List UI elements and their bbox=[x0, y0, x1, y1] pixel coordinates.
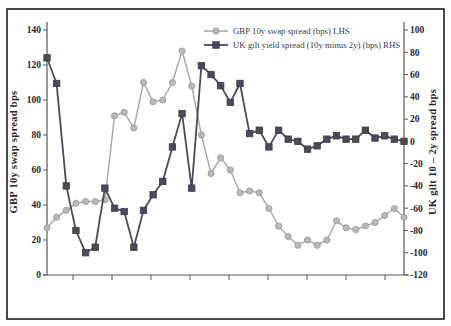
data-point-square bbox=[266, 144, 272, 150]
data-point-circle bbox=[54, 214, 60, 220]
right-tick-label: -120 bbox=[410, 270, 428, 280]
right-tick-label: -40 bbox=[410, 181, 423, 191]
data-point-circle bbox=[304, 237, 310, 243]
legend-square-marker-icon bbox=[213, 42, 219, 48]
data-point-square bbox=[169, 144, 175, 150]
data-point-circle bbox=[160, 97, 166, 103]
left-tick-label: 40 bbox=[32, 200, 42, 210]
data-point-square bbox=[227, 99, 233, 105]
data-point-circle bbox=[169, 79, 175, 85]
dual-axis-line-chart: 020406080100120140100806040200-20-40-60-… bbox=[0, 0, 451, 326]
data-point-circle bbox=[140, 79, 146, 85]
data-point-square bbox=[343, 136, 349, 142]
data-point-circle bbox=[218, 155, 224, 161]
data-point-circle bbox=[362, 223, 368, 229]
left-axis-title: GBP 10y swap spread bps bbox=[8, 91, 19, 214]
legend-label-gilt: UK gilt yield spread (10y minus 2y) (bps… bbox=[233, 40, 400, 50]
data-point-circle bbox=[111, 113, 117, 119]
data-point-circle bbox=[131, 125, 137, 131]
data-point-circle bbox=[391, 205, 397, 211]
data-point-square bbox=[372, 135, 378, 141]
data-point-square bbox=[63, 183, 69, 189]
data-point-circle bbox=[372, 219, 378, 225]
data-point-square bbox=[92, 244, 98, 250]
right-tick-label: -100 bbox=[410, 248, 428, 258]
data-point-square bbox=[121, 208, 127, 214]
data-point-square bbox=[237, 80, 243, 86]
data-point-square bbox=[382, 133, 388, 139]
data-point-square bbox=[44, 55, 50, 61]
legend-item-gilt: UK gilt yield spread (10y minus 2y) (bps… bbox=[204, 40, 400, 50]
data-point-circle bbox=[198, 132, 204, 138]
data-point-square bbox=[275, 127, 281, 133]
right-tick-label: -20 bbox=[410, 159, 423, 169]
data-point-square bbox=[362, 127, 368, 133]
data-point-square bbox=[324, 136, 330, 142]
data-point-circle bbox=[314, 242, 320, 248]
data-point-circle bbox=[382, 212, 388, 218]
figure-page: 020406080100120140100806040200-20-40-60-… bbox=[0, 0, 451, 326]
data-point-square bbox=[314, 143, 320, 149]
data-point-circle bbox=[121, 109, 127, 115]
left-tick-label: 60 bbox=[32, 165, 42, 175]
data-point-square bbox=[304, 146, 310, 152]
data-point-circle bbox=[333, 218, 339, 224]
data-point-square bbox=[208, 71, 214, 77]
data-point-circle bbox=[285, 233, 291, 239]
data-point-square bbox=[198, 62, 204, 68]
data-point-square bbox=[189, 185, 195, 191]
data-point-circle bbox=[150, 99, 156, 105]
right-tick-label: 20 bbox=[410, 114, 420, 124]
data-point-circle bbox=[63, 207, 69, 213]
data-point-square bbox=[217, 82, 223, 88]
data-point-circle bbox=[82, 198, 88, 204]
data-point-square bbox=[102, 185, 108, 191]
data-point-square bbox=[353, 136, 359, 142]
data-point-circle bbox=[295, 242, 301, 248]
right-tick-label: 0 bbox=[410, 137, 415, 147]
right-tick-label: -60 bbox=[410, 204, 423, 214]
data-point-square bbox=[82, 250, 88, 256]
right-tick-label: 60 bbox=[410, 70, 420, 80]
data-point-square bbox=[140, 207, 146, 213]
data-point-square bbox=[256, 127, 262, 133]
data-point-circle bbox=[401, 214, 407, 220]
data-point-circle bbox=[179, 48, 185, 54]
data-point-square bbox=[246, 130, 252, 136]
legend-circle-marker-icon bbox=[213, 28, 219, 34]
left-tick-label: 20 bbox=[32, 235, 42, 245]
data-point-square bbox=[295, 138, 301, 144]
right-tick-label: 100 bbox=[410, 25, 425, 35]
data-point-square bbox=[391, 136, 397, 142]
data-point-circle bbox=[266, 205, 272, 211]
data-point-square bbox=[333, 133, 339, 139]
data-point-circle bbox=[237, 190, 243, 196]
left-tick-label: 80 bbox=[32, 130, 42, 140]
data-point-square bbox=[179, 110, 185, 116]
data-point-circle bbox=[208, 170, 214, 176]
data-point-circle bbox=[353, 226, 359, 232]
data-point-square bbox=[111, 205, 117, 211]
data-point-circle bbox=[44, 225, 50, 231]
left-tick-label: 120 bbox=[27, 60, 42, 70]
data-point-circle bbox=[189, 83, 195, 89]
data-point-circle bbox=[275, 223, 281, 229]
data-point-square bbox=[53, 80, 59, 86]
data-point-circle bbox=[324, 237, 330, 243]
right-axis-title: UK gilt 10 – 2y spread bps bbox=[427, 89, 438, 215]
data-point-circle bbox=[343, 225, 349, 231]
data-point-square bbox=[150, 192, 156, 198]
data-point-circle bbox=[256, 190, 262, 196]
data-point-circle bbox=[247, 188, 253, 194]
data-point-square bbox=[73, 227, 79, 233]
right-tick-label: 40 bbox=[410, 92, 420, 102]
data-point-circle bbox=[227, 167, 233, 173]
left-tick-label: 100 bbox=[27, 95, 42, 105]
data-point-square bbox=[285, 136, 291, 142]
right-tick-label: 80 bbox=[410, 48, 420, 58]
data-point-square bbox=[401, 138, 407, 144]
data-point-circle bbox=[92, 198, 98, 204]
data-point-square bbox=[131, 244, 137, 250]
right-tick-label: -80 bbox=[410, 226, 423, 236]
left-tick-label: 140 bbox=[27, 25, 42, 35]
